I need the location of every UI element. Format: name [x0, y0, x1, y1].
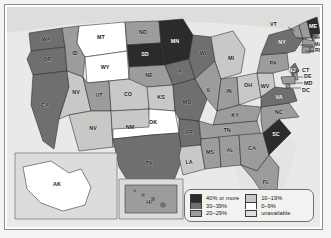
- label-HI: HI: [146, 199, 152, 205]
- state-DC[interactable]: [286, 84, 290, 88]
- map-legend[interactable]: 40% or more 30–39% 20–29%: [184, 189, 314, 222]
- label-WA: WA: [42, 36, 51, 42]
- label-KY: KY: [231, 112, 239, 118]
- label-NJ: NJ: [289, 67, 296, 73]
- label-TN: TN: [223, 127, 230, 133]
- label-SC: SC: [272, 131, 280, 137]
- label-AK: AK: [53, 181, 61, 187]
- label-NC: NC: [275, 109, 283, 115]
- label-DE: DE: [304, 73, 312, 79]
- label-CO: CO: [124, 91, 132, 97]
- legend-item[interactable]: 30–39%: [190, 202, 239, 210]
- label-WV: WV: [261, 83, 270, 89]
- legend-label: 0–9%: [261, 203, 276, 209]
- label-OR: OR: [43, 56, 51, 62]
- legend-swatch-0-9: [245, 202, 257, 209]
- label-ID: ID: [72, 50, 77, 56]
- legend-swatch-stack-right: 10–19% 0–9% unavailable: [245, 194, 290, 217]
- label-TX: TX: [146, 160, 153, 166]
- label-AR: AR: [185, 129, 193, 135]
- legend-label: 10–19%: [261, 195, 282, 201]
- label-NM: NM: [126, 124, 135, 130]
- label-IN: IN: [226, 88, 231, 94]
- inset-alaska[interactable]: [15, 153, 117, 219]
- label-MS: MS: [206, 149, 214, 155]
- label-GA: GA: [248, 145, 256, 151]
- label-KS: KS: [157, 94, 165, 100]
- label-ND: ND: [139, 29, 147, 35]
- legend-label: unavailable: [261, 210, 290, 216]
- label-NV: NV: [72, 89, 80, 95]
- label-MD: MD: [304, 80, 312, 86]
- label-MO: MO: [183, 99, 192, 105]
- label-MN: MN: [171, 38, 179, 44]
- legend-label: 20–29%: [206, 210, 227, 216]
- label-WI: WI: [200, 50, 207, 56]
- label-PA: PA: [269, 60, 276, 66]
- label-IL: IL: [207, 87, 212, 93]
- state-MD[interactable]: [281, 76, 295, 84]
- label-NH: NH: [313, 34, 320, 40]
- label-UT: UT: [95, 92, 103, 98]
- label-AL: AL: [226, 147, 234, 153]
- legend-item[interactable]: 40% or more: [190, 194, 239, 202]
- label-AZ: NV: [89, 125, 97, 131]
- label-NE: NE: [145, 72, 153, 78]
- label-MI: MI: [228, 55, 234, 61]
- state-OH[interactable]: [237, 73, 261, 105]
- legend-label: 40% or more: [206, 195, 239, 201]
- label-MT: MT: [97, 34, 105, 40]
- label-DC: DC: [302, 87, 310, 93]
- label-FL: FL: [263, 179, 270, 185]
- label-LA: LA: [185, 159, 192, 165]
- legend-column-left: 40% or more 30–39% 20–29%: [190, 194, 239, 217]
- legend-swatch-40-or-more: [190, 194, 202, 201]
- legend-item[interactable]: 10–19%: [245, 194, 290, 202]
- label-ME: ME: [309, 23, 317, 29]
- map-canvas[interactable]: WA OR CA ID NV MT WY UT NV CO NM ND SD N…: [7, 7, 320, 227]
- legend-swatch-10-19: [245, 194, 257, 201]
- legend-item[interactable]: unavailable: [245, 209, 290, 217]
- state-CT[interactable]: [302, 47, 310, 53]
- label-VT: VT: [270, 21, 278, 27]
- label-WY: WY: [101, 64, 110, 70]
- map-figure: WA OR CA ID NV MT WY UT NV CO NM ND SD N…: [0, 0, 331, 238]
- legend-swatch-unavailable: [245, 210, 257, 217]
- label-NY: NY: [278, 39, 286, 45]
- label-RI: RI: [315, 47, 320, 53]
- legend-label: 30–39%: [206, 203, 227, 209]
- legend-swatch-30-39: [190, 202, 202, 209]
- map-plate: WA OR CA ID NV MT WY UT NV CO NM ND SD N…: [4, 4, 323, 230]
- label-SD: SD: [141, 51, 149, 57]
- label-IA: IA: [176, 68, 181, 74]
- label-OK: OK: [149, 119, 157, 125]
- legend-swatch-20-29: [190, 210, 202, 217]
- label-OH: OH: [244, 82, 252, 88]
- legend-item[interactable]: 20–29%: [190, 209, 239, 217]
- label-VA: VA: [275, 94, 282, 100]
- legend-column-right: 10–19% 0–9% unavailable: [245, 194, 290, 217]
- legend-swatch-stack-left: 40% or more 30–39% 20–29%: [190, 194, 239, 217]
- label-CA: CA: [41, 102, 49, 108]
- legend-item[interactable]: 0–9%: [245, 202, 290, 210]
